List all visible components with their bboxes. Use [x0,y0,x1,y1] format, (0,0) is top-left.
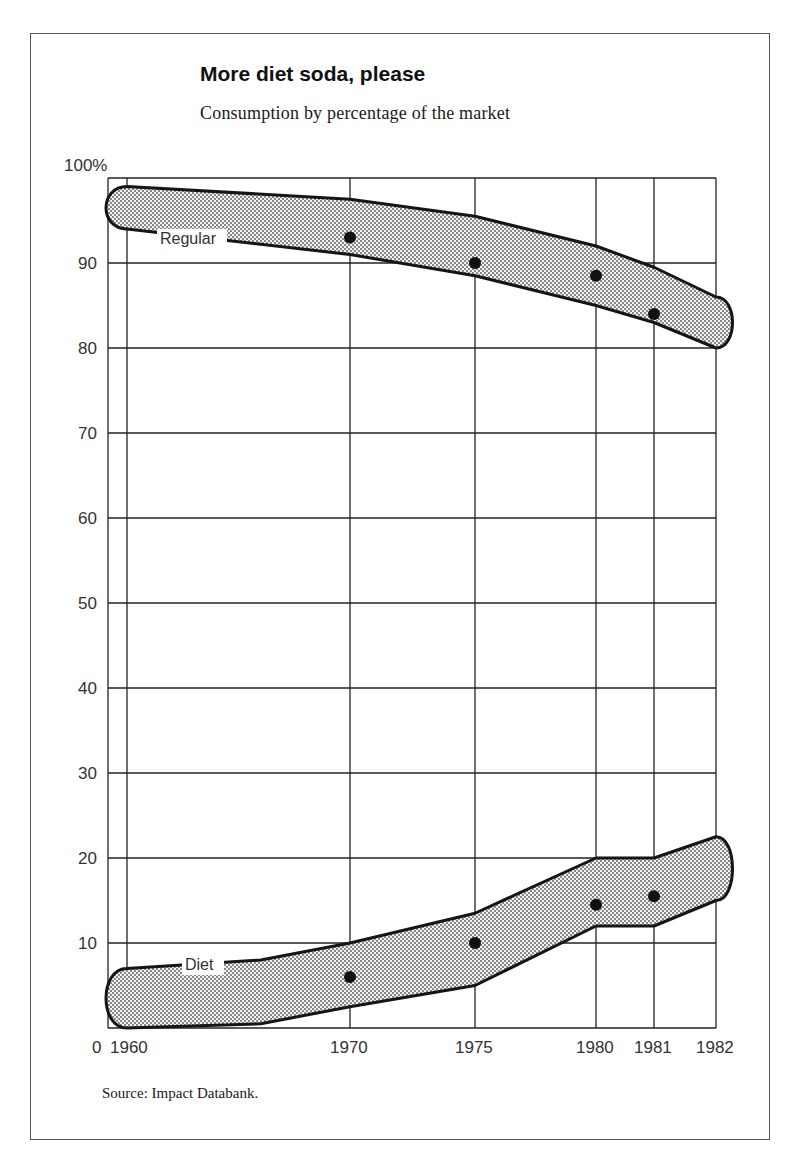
x-tick-label: 1981 [634,1038,672,1057]
y-tick-label: 70 [78,424,97,443]
regular-series-label: Regular [160,230,217,247]
series-labels: RegularDiet [157,229,227,975]
series-bands [106,187,733,1029]
regular-data-point [469,257,481,269]
diet-series-label: Diet [185,956,214,973]
y-tick-label: 20 [78,849,97,868]
y-tick-label: 30 [78,764,97,783]
x-tick-label: 1970 [330,1038,368,1057]
chart-plot: 100%908070605040302010 01960197019751980… [0,0,801,1168]
source-note: Source: Impact Databank. [102,1085,258,1102]
y-tick-label: 50 [78,594,97,613]
regular-data-point [590,270,602,282]
diet-data-point [469,937,481,949]
regular-band [106,187,733,349]
diet-data-point [648,890,660,902]
x-axis-ticks: 0196019701975198019811982 [92,1038,734,1057]
y-axis-ticks: 100%908070605040302010 [64,156,107,953]
x-tick-label: 1960 [110,1038,148,1057]
y-tick-label: 10 [78,934,97,953]
x-tick-label: 1982 [696,1038,734,1057]
regular-data-point [648,308,660,320]
y-tick-label: 60 [78,509,97,528]
diet-band [106,837,733,1028]
regular-data-point [344,232,356,244]
diet-data-point [344,971,356,983]
y-tick-label: 90 [78,254,97,273]
x-tick-label: 0 [92,1038,101,1057]
diet-data-point [590,899,602,911]
y-tick-label: 40 [78,679,97,698]
x-tick-label: 1980 [576,1038,614,1057]
x-tick-label: 1975 [455,1038,493,1057]
y-tick-label: 80 [78,339,97,358]
y-tick-label: 100% [64,156,107,175]
